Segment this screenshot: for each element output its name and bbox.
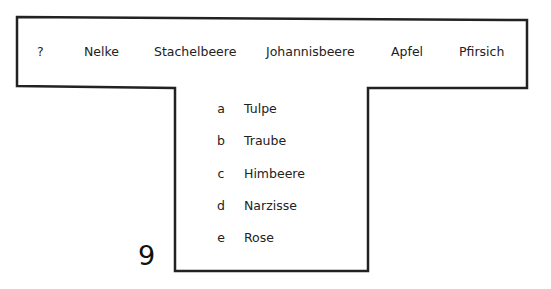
option-word: Tulpe [244,101,277,116]
option-letter: b [214,133,228,148]
option-letter: c [214,166,228,181]
option-letter: a [214,101,228,116]
option-word: Rose [244,230,274,245]
option-word: Himbeere [244,166,305,181]
sequence-item: Pfirsich [459,44,504,59]
option-letter: e [214,230,228,245]
sequence-item-unknown: ? [37,44,44,59]
option-word: Narzisse [244,198,297,213]
option-word: Traube [244,133,286,148]
option-letter: d [214,198,228,213]
sequence-item: Johannisbeere [266,44,355,59]
sequence-item: Apfel [391,44,423,59]
sequence-item: Nelke [84,44,119,59]
puzzle-number: 9 [138,240,155,271]
sequence-item: Stachelbeere [154,44,236,59]
